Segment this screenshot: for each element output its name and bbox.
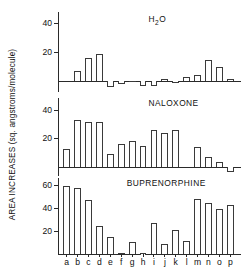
bar-chart-figure: AREA INCREASES (sq. angstroms/molecule) … [0, 0, 241, 276]
plot-area: 204060 [58, 178, 239, 254]
chart-panel-naloxone: 2040NALOXONE [22, 98, 241, 176]
y-tick-label: 60 [42, 181, 52, 190]
bar [151, 130, 158, 168]
bar [140, 146, 147, 168]
y-tick-label: 20 [42, 134, 52, 143]
bar [74, 120, 81, 168]
y-tick-label: 40 [42, 19, 52, 28]
plot-area: 2040 [58, 98, 239, 176]
x-axis-tick-label: m [194, 258, 201, 267]
x-axis-tick-label: b [75, 258, 80, 267]
x-axis-tick-label: f [120, 258, 122, 267]
bar [96, 54, 103, 80]
x-axis-tick-label: p [228, 258, 233, 267]
bar [107, 154, 114, 168]
bar [161, 244, 168, 254]
bar [63, 149, 70, 168]
bar [194, 199, 201, 254]
bar [227, 205, 234, 254]
x-axis-tick-label: c [86, 258, 90, 267]
bar [140, 81, 147, 87]
bar [205, 157, 212, 168]
bar [129, 141, 136, 167]
x-axis-tick-label: l [186, 258, 188, 267]
y-axis-label: AREA INCREASES (sq. angstroms/molecule) [8, 10, 17, 260]
bar [118, 144, 125, 167]
y-tick-mark [54, 208, 59, 209]
chart-panel-h2o: 2040H2O [22, 12, 241, 92]
bar [216, 162, 223, 168]
bar [63, 186, 70, 254]
x-axis-line [58, 81, 241, 82]
y-tick-mark [54, 23, 59, 24]
x-axis-tick-label: a [64, 258, 69, 267]
y-tick-label: 40 [42, 204, 52, 213]
x-axis-tick-label: k [174, 258, 178, 267]
bar [194, 147, 201, 167]
x-axis-tick-label: g [130, 258, 135, 267]
bar [227, 79, 234, 80]
bar [129, 242, 136, 254]
x-axis-tick-label: j [164, 258, 166, 267]
bar [161, 79, 168, 80]
bar [183, 241, 190, 254]
bar [172, 130, 179, 168]
y-axis-line [58, 178, 59, 254]
y-tick-mark [54, 185, 59, 186]
bar [107, 81, 114, 87]
panel-title: H2O [149, 14, 167, 26]
bar [205, 60, 212, 81]
x-axis-tick-label: h [141, 258, 146, 267]
x-axis-tick-label: o [217, 258, 222, 267]
bar [129, 81, 136, 82]
bar [227, 167, 234, 171]
bar [96, 226, 103, 254]
y-tick-label: 20 [42, 227, 52, 236]
y-tick-label: 20 [42, 48, 52, 57]
bar [74, 71, 81, 81]
bar [161, 133, 168, 168]
bar [205, 203, 212, 254]
x-axis-tick-label: i [153, 258, 155, 267]
y-axis-label-container: AREA INCREASES (sq. angstroms/molecule) [0, 0, 22, 276]
x-axis-tick-label: d [97, 258, 102, 267]
x-axis-tick-label: n [206, 258, 211, 267]
bar [151, 223, 158, 254]
bar [194, 75, 201, 81]
bar [216, 67, 223, 81]
y-tick-mark [54, 52, 59, 53]
bar [85, 122, 92, 168]
y-tick-mark [54, 231, 59, 232]
bar [172, 81, 179, 84]
bar [183, 77, 190, 81]
bar [85, 58, 92, 81]
bar [96, 122, 103, 168]
x-axis-line [58, 167, 241, 168]
panel-title: BUPRENORPHINE [127, 178, 206, 188]
x-axis-tick-label: e [108, 258, 113, 267]
x-axis-line [58, 254, 241, 255]
y-tick-label: 40 [42, 106, 52, 115]
y-tick-mark [54, 110, 59, 111]
bar [85, 200, 92, 254]
bar [216, 209, 223, 254]
chart-panel-buprenorphine: 204060BUPRENORPHINE [22, 178, 241, 254]
panel-title: NALOXONE [149, 98, 199, 108]
bar [118, 81, 125, 85]
bar [74, 188, 81, 254]
bar [151, 81, 158, 87]
y-tick-mark [54, 138, 59, 139]
bar [172, 230, 179, 254]
bar [107, 237, 114, 254]
